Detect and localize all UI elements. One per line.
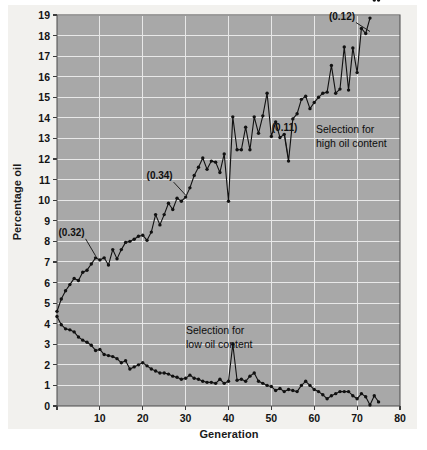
data-point <box>175 196 178 199</box>
data-point <box>373 0 376 2</box>
data-point <box>115 257 118 260</box>
data-point <box>321 92 324 95</box>
data-point <box>235 148 238 151</box>
data-point <box>205 381 208 384</box>
data-point <box>278 136 281 139</box>
data-point <box>218 378 221 381</box>
data-point <box>162 371 165 374</box>
data-point <box>193 174 196 177</box>
annotation-label: (0.32) <box>59 227 85 238</box>
data-point <box>137 363 140 366</box>
x-tick-label: 50 <box>266 412 278 424</box>
data-point <box>334 92 337 95</box>
data-point <box>77 335 80 338</box>
data-point <box>330 394 333 397</box>
data-point <box>308 107 311 110</box>
data-point <box>60 323 63 326</box>
data-point <box>321 393 324 396</box>
data-point <box>235 379 238 382</box>
data-point <box>248 148 251 151</box>
data-point <box>343 390 346 393</box>
data-point <box>368 16 371 19</box>
data-point <box>85 268 88 271</box>
data-point <box>167 202 170 205</box>
data-point <box>180 200 183 203</box>
data-point <box>223 382 226 385</box>
data-point <box>197 378 200 381</box>
data-point <box>150 367 153 370</box>
data-point <box>141 233 144 236</box>
data-point <box>261 114 264 117</box>
data-point <box>227 200 230 203</box>
data-point <box>167 372 170 375</box>
y-tick-label: 4 <box>44 318 50 330</box>
data-point <box>68 283 71 286</box>
data-point <box>214 160 217 163</box>
data-point <box>64 327 67 330</box>
data-point <box>343 45 346 48</box>
data-point <box>55 315 58 318</box>
x-tick-label: 30 <box>180 412 192 424</box>
data-point <box>72 330 75 333</box>
data-point <box>111 355 114 358</box>
data-point <box>300 98 303 101</box>
data-point <box>150 230 153 233</box>
data-point <box>368 403 371 406</box>
y-tick-label: 12 <box>38 153 50 165</box>
data-point <box>295 112 298 115</box>
y-tick-label: 13 <box>38 132 50 144</box>
data-point <box>304 95 307 98</box>
data-point <box>162 213 165 216</box>
annotation-label: (0.12) <box>329 11 355 22</box>
data-point <box>94 349 97 352</box>
high-oil-series-label-line2: high oil content <box>316 137 387 149</box>
data-point <box>154 213 157 216</box>
y-tick-label: 0 <box>44 400 50 412</box>
data-point <box>158 371 161 374</box>
y-tick-label: 6 <box>44 277 50 289</box>
data-point <box>188 373 191 376</box>
data-point <box>364 32 367 35</box>
data-point <box>171 208 174 211</box>
data-point <box>205 168 208 171</box>
data-point <box>141 361 144 364</box>
data-point <box>94 256 97 259</box>
data-point <box>77 279 80 282</box>
data-point <box>240 148 243 151</box>
data-point <box>351 46 354 49</box>
data-point <box>223 152 226 155</box>
data-point <box>98 258 101 261</box>
data-point <box>355 71 358 74</box>
data-point <box>184 377 187 380</box>
data-point <box>210 381 213 384</box>
data-point <box>64 289 67 292</box>
data-point <box>197 166 200 169</box>
data-point <box>124 359 127 362</box>
y-tick-label: 2 <box>44 359 50 371</box>
data-point <box>274 389 277 392</box>
data-point <box>265 384 268 387</box>
data-point <box>317 96 320 99</box>
data-point <box>278 387 281 390</box>
data-point <box>334 392 337 395</box>
data-point <box>248 374 251 377</box>
low-oil-series-label-line2: low oil content <box>186 338 253 350</box>
data-point <box>338 390 341 393</box>
annotation-label: (0.11) <box>272 122 298 133</box>
data-point <box>132 238 135 241</box>
data-point <box>291 389 294 392</box>
data-point <box>158 223 161 226</box>
data-point <box>244 380 247 383</box>
data-point <box>180 378 183 381</box>
data-point <box>313 101 316 104</box>
data-point <box>261 382 264 385</box>
y-tick-label: 11 <box>39 174 50 186</box>
y-tick-label: 17 <box>38 50 50 62</box>
data-point <box>128 367 131 370</box>
data-point <box>175 375 178 378</box>
data-point <box>55 310 58 313</box>
data-point <box>270 135 273 138</box>
data-point <box>253 371 256 374</box>
x-axis-ticks: 1020304050607080 <box>57 406 406 424</box>
data-point <box>308 384 311 387</box>
